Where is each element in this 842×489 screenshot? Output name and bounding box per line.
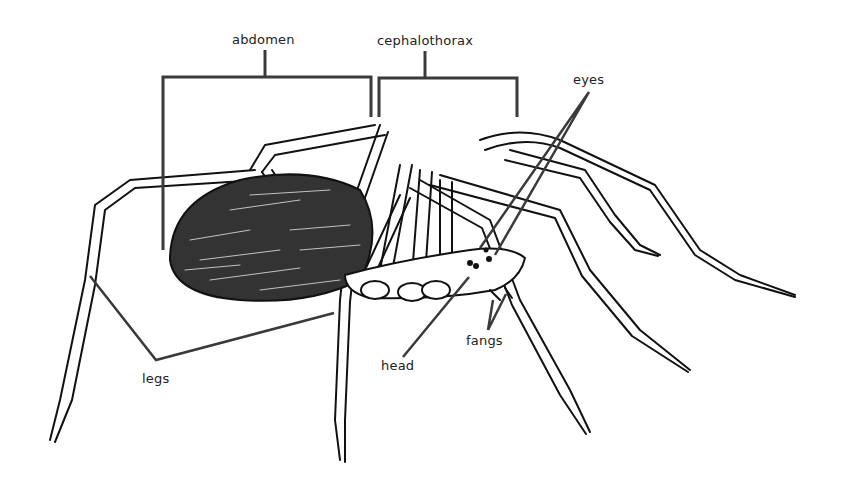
leg-far-right-2: [505, 150, 660, 256]
label-legs: legs: [142, 371, 169, 386]
label-head: head: [381, 358, 414, 373]
abdomen-shape: [170, 174, 373, 300]
eyes-leader: [480, 92, 589, 255]
spider-illustration: [0, 0, 842, 489]
cephalothorax-bracket: [379, 78, 517, 117]
leg-far-right-1: [480, 133, 795, 298]
label-eyes: eyes: [573, 72, 604, 87]
label-cephalothorax: cephalothorax: [377, 33, 473, 48]
fangs-leader: [488, 294, 506, 330]
label-abdomen: abdomen: [232, 32, 295, 47]
spider-anatomy-diagram: abdomen cephalothorax eyes head fangs le…: [0, 0, 842, 489]
label-fangs: fangs: [466, 333, 503, 348]
